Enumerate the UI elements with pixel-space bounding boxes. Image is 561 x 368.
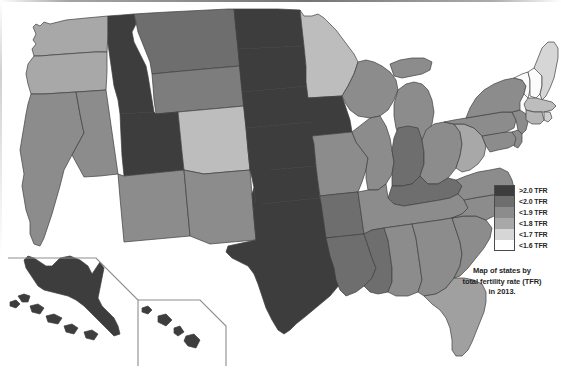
state-NE[interactable] [242, 86, 312, 128]
legend-swatch-lt-1-7 [494, 229, 515, 240]
state-WA[interactable] [32, 16, 108, 56]
state-ND[interactable] [234, 9, 304, 49]
legend-label-lt-1-9: <1.9 TFR [519, 209, 548, 216]
legend-label-gt-2-0: >2.0 TFR [519, 187, 548, 194]
state-OH[interactable] [420, 122, 462, 184]
legend-item[interactable]: <1.6 TFR [494, 240, 558, 251]
state-HI[interactable] [142, 306, 200, 348]
legend-swatch-lt-2-0 [494, 196, 515, 207]
state-SD[interactable] [238, 46, 308, 92]
legend-swatch-lt-1-8 [494, 218, 515, 229]
state-KS[interactable] [246, 122, 316, 170]
legend-swatch-gt-2-0 [494, 185, 515, 196]
state-CT[interactable] [526, 110, 544, 124]
state-AK[interactable] [10, 256, 120, 340]
state-AZ[interactable] [118, 170, 190, 242]
legend-swatch-lt-1-6 [494, 240, 515, 251]
caption-line-1: Map of states by [446, 266, 558, 277]
state-CA[interactable] [20, 92, 84, 246]
state-UT[interactable] [120, 112, 184, 176]
legend-item[interactable]: >2.0 TFR [494, 185, 558, 196]
caption-line-3: in 2013. [446, 287, 558, 298]
state-OR[interactable] [26, 52, 107, 94]
state-RI[interactable] [544, 112, 552, 122]
legend-label-lt-2-0: <2.0 TFR [519, 198, 548, 205]
legend-label-lt-1-7: <1.7 TFR [519, 231, 548, 238]
map-figure: >2.0 TFR <2.0 TFR <1.9 TFR <1.8 TFR <1.7… [0, 0, 561, 368]
legend-swatch-lt-1-9 [494, 207, 515, 218]
map-caption: Map of states by total fertility rate (T… [446, 266, 558, 298]
legend-label-lt-1-8: <1.8 TFR [519, 220, 548, 227]
legend-item[interactable]: <1.9 TFR [494, 207, 558, 218]
state-AR[interactable] [320, 192, 364, 238]
legend-item[interactable]: <1.7 TFR [494, 229, 558, 240]
state-MT[interactable] [134, 9, 240, 74]
map-legend: >2.0 TFR <2.0 TFR <1.9 TFR <1.8 TFR <1.7… [494, 185, 558, 251]
caption-line-2: total fertility rate (TFR) [446, 277, 558, 288]
state-WY[interactable] [152, 66, 244, 114]
us-choropleth-map [0, 0, 561, 368]
states-layer [10, 9, 558, 356]
legend-item[interactable]: <2.0 TFR [494, 196, 558, 207]
legend-item[interactable]: <1.8 TFR [494, 218, 558, 229]
state-MA[interactable] [524, 98, 556, 112]
legend-label-lt-1-6: <1.6 TFR [519, 242, 548, 249]
state-OK[interactable] [250, 166, 320, 204]
state-NM[interactable] [184, 170, 256, 244]
state-CO[interactable] [178, 106, 250, 174]
